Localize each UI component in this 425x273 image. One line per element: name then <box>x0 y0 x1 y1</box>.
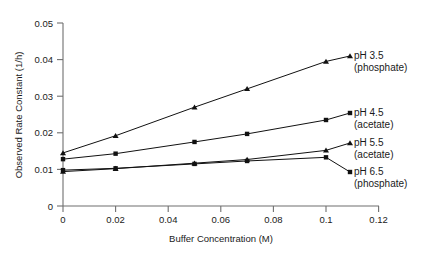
chart-canvas: 0.05 0.04 0.03 0.02 0.01 0 0 0.02 0.04 0… <box>0 0 425 273</box>
annotation-ph-4-5: pH 4.5 (acetate) <box>354 107 393 130</box>
leader-line <box>326 157 350 172</box>
y-tick-label-0.04: 0.04 <box>35 54 54 65</box>
data-point-square <box>324 155 328 159</box>
series-ph-5-5-acetate <box>60 148 329 174</box>
data-point-square <box>61 168 65 172</box>
annotation-ph-6-5: pH 6.5 (phosphate) <box>354 166 407 189</box>
x-tick-label-0: 0 <box>60 214 65 225</box>
y-axis-title: Observed Rate Constant (1/h) <box>13 52 24 179</box>
annotation-ph-4-5-line2: (acetate) <box>354 119 393 130</box>
annotation-ph-5-5-line2: (acetate) <box>354 149 393 160</box>
annotation-ph-4-5-line1: pH 4.5 <box>354 107 384 118</box>
annotation-marker-triangle <box>347 140 353 145</box>
y-tick-label-0: 0 <box>48 201 53 212</box>
data-point-square <box>61 157 65 161</box>
data-point-square <box>113 166 117 170</box>
annotation-marker-square <box>348 170 352 174</box>
leader-line-layer <box>326 53 353 174</box>
leader-line <box>326 56 350 61</box>
data-point-square <box>192 162 196 166</box>
data-point-square <box>245 132 249 136</box>
annotation-marker-triangle <box>347 53 353 58</box>
annotation-ph-3-5-line2: (phosphate) <box>354 62 407 73</box>
annotation-ph-5-5: pH 5.5 (acetate) <box>354 137 393 160</box>
x-tick-label-0.12: 0.12 <box>369 214 388 225</box>
annotation-ph-6-5-line2: (phosphate) <box>354 178 407 189</box>
x-tick-label-0.06: 0.06 <box>212 214 231 225</box>
y-tick-label-0.01: 0.01 <box>35 164 54 175</box>
leader-line <box>326 143 350 150</box>
x-tick-label-0.1: 0.1 <box>319 214 332 225</box>
annotation-ph-3-5: pH 3.5 (phosphate) <box>354 50 407 73</box>
leader-line <box>326 113 350 120</box>
x-tick-label-0.02: 0.02 <box>106 214 125 225</box>
chart-figure: 0.05 0.04 0.03 0.02 0.01 0 0 0.02 0.04 0… <box>0 0 425 273</box>
annotation-marker-square <box>348 111 352 115</box>
y-tick-label-0.02: 0.02 <box>35 127 54 138</box>
x-tick-label-0.08: 0.08 <box>264 214 283 225</box>
data-point-square <box>245 159 249 163</box>
annotation-ph-3-5-line1: pH 3.5 <box>354 50 384 61</box>
y-tick-label-0.03: 0.03 <box>35 91 54 102</box>
annotation-ph-5-5-line1: pH 5.5 <box>354 137 384 148</box>
annotation-ph-6-5-line1: pH 6.5 <box>354 166 384 177</box>
y-tick-label-0.05: 0.05 <box>35 18 54 29</box>
data-point-square <box>192 140 196 144</box>
data-point-square <box>113 151 117 155</box>
x-tick-label-0.04: 0.04 <box>159 214 178 225</box>
x-axis-title: Buffer Concentration (M) <box>169 233 273 244</box>
series-layer <box>60 59 329 174</box>
